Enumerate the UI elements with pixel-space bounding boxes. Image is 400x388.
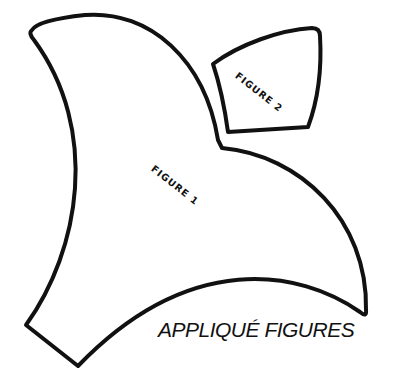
figure-2-shape <box>213 28 321 132</box>
diagram-caption: APPLIQUÉ FIGURES <box>158 318 354 342</box>
